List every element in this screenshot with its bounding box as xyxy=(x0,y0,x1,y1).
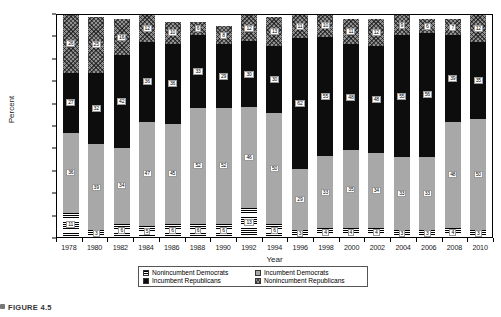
segment-incumbent-republicans: 48 xyxy=(368,46,384,153)
segment-value-label: 6 xyxy=(195,227,202,234)
segment-nonincumbent-republicans: 7 xyxy=(445,19,461,35)
legend-swatch-icon xyxy=(255,270,261,276)
segment-incumbent-democrats: 47 xyxy=(139,122,155,226)
segment-incumbent-democrats: 39 xyxy=(88,144,104,231)
x-axis-tick-mark xyxy=(262,238,263,242)
y-axis: Percent 0%10%20%30%40%50%60%70%80%90%100… xyxy=(0,0,56,239)
segment-nonincumbent-democrats: 4 xyxy=(368,228,384,237)
segment-value-label: 4 xyxy=(373,229,380,236)
segment-value-label: 42 xyxy=(117,98,126,105)
segment-value-label: 6 xyxy=(424,23,431,30)
segment-value-label: 36 xyxy=(143,78,152,85)
segment-value-label: 39 xyxy=(448,75,457,82)
segment-value-label: 3 xyxy=(399,230,406,237)
segment-incumbent-democrats: 34 xyxy=(114,148,130,223)
segment-value-label: 5 xyxy=(144,228,151,235)
segment-value-label: 4 xyxy=(449,229,456,236)
segment-incumbent-democrats: 34 xyxy=(368,153,384,228)
x-axis-tick-label: 2006 xyxy=(416,243,442,255)
segment-incumbent-republicans: 48 xyxy=(343,44,359,151)
segment-incumbent-democrats: 48 xyxy=(445,122,461,229)
segment-value-label: 4 xyxy=(322,229,329,236)
x-axis-tick-label: 2008 xyxy=(442,243,468,255)
segment-incumbent-democrats: 52 xyxy=(190,108,206,223)
segment-nonincumbent-republicans: 16 xyxy=(114,19,130,55)
segment-value-label: 6 xyxy=(220,227,227,234)
segment-nonincumbent-democrats: 4 xyxy=(445,228,461,237)
segment-value-label: 32 xyxy=(92,105,101,112)
segment-value-label: 13 xyxy=(270,28,279,35)
segment-nonincumbent-republicans: 6 xyxy=(419,19,435,32)
segment-incumbent-republicans: 36 xyxy=(165,44,181,124)
bar-1998: 4335510 xyxy=(317,15,333,237)
segment-value-label: 6 xyxy=(271,227,278,234)
segment-nonincumbent-democrats: 6 xyxy=(190,224,206,237)
x-axis-tick-mark xyxy=(159,238,160,242)
segment-value-label: 25 xyxy=(92,41,101,48)
x-axis-tick-mark xyxy=(82,238,83,242)
x-axis-tick-mark xyxy=(313,238,314,242)
segment-value-label: 50 xyxy=(270,165,279,172)
x-axis-tick-mark xyxy=(287,238,288,242)
legend-item-label: Nonincumbent Republicans xyxy=(264,277,345,284)
x-axis-tick-label: 1998 xyxy=(313,243,339,255)
segment-nonincumbent-democrats: 6 xyxy=(216,224,232,237)
segment-value-label: 36 xyxy=(168,80,177,87)
bar-1990: 652298 xyxy=(216,15,232,237)
segment-incumbent-democrats: 36 xyxy=(63,133,79,213)
x-axis-tick-label: 2010 xyxy=(467,243,493,255)
segment-value-label: 10 xyxy=(168,29,177,36)
segment-nonincumbent-republicans: 8 xyxy=(216,26,232,44)
segment-nonincumbent-republicans: 12 xyxy=(470,15,486,42)
segment-value-label: 46 xyxy=(244,154,253,161)
x-axis-tick-mark xyxy=(185,238,186,242)
bar-2004: 333559 xyxy=(394,15,410,237)
segment-incumbent-republicans: 35 xyxy=(470,42,486,120)
stacked-bar-chart: Percent 0%10%20%30%40%50%60%70%80%90%100… xyxy=(0,0,501,317)
legend-swatch-icon xyxy=(143,278,149,284)
segment-value-label: 6 xyxy=(118,227,125,234)
x-axis-tick-label: 1992 xyxy=(236,243,262,255)
segment-value-label: 12 xyxy=(372,29,381,36)
segment-value-label: 52 xyxy=(193,162,202,169)
segment-value-label: 11 xyxy=(346,28,355,35)
segment-nonincumbent-democrats: 4 xyxy=(343,228,359,237)
segment-value-label: 30 xyxy=(244,71,253,78)
segment-value-label: 16 xyxy=(117,34,126,41)
segment-nonincumbent-democrats: 6 xyxy=(266,224,282,237)
segment-value-label: 7 xyxy=(449,24,456,31)
x-axis-tick-label: 1988 xyxy=(185,243,211,255)
x-axis-tick-label: 1982 xyxy=(107,243,133,255)
segment-incumbent-democrats: 33 xyxy=(317,156,333,228)
x-axis-tick-mark xyxy=(107,238,108,242)
segment-nonincumbent-republicans: 10 xyxy=(165,22,181,44)
bar-2000: 4354811 xyxy=(343,15,359,237)
segment-value-label: 33 xyxy=(193,68,202,75)
legend-item-label: Incumbent Democrats xyxy=(264,269,329,276)
segment-incumbent-republicans: 62 xyxy=(292,38,308,169)
segment-value-label: 39 xyxy=(92,184,101,191)
segment-incumbent-democrats: 35 xyxy=(343,150,359,228)
x-axis-tick-mark xyxy=(416,238,417,242)
legend-item-nonincumbent-democrats: Nonincumbent Democrats xyxy=(143,269,251,276)
segment-value-label: 48 xyxy=(372,96,381,103)
x-axis-tick-mark xyxy=(467,238,468,242)
segment-incumbent-democrats: 33 xyxy=(394,157,410,230)
segment-nonincumbent-republicans: 25 xyxy=(88,17,104,73)
legend-swatch-icon xyxy=(143,270,149,276)
bar-1984: 5473612 xyxy=(139,15,155,237)
legend-item-incumbent-democrats: Incumbent Democrats xyxy=(255,269,363,276)
segment-nonincumbent-democrats: 3 xyxy=(419,230,435,237)
segment-nonincumbent-republicans: 13 xyxy=(266,17,282,46)
segment-value-label: 3 xyxy=(297,230,304,237)
segment-value-label: 29 xyxy=(295,196,304,203)
x-axis-tick-mark xyxy=(210,238,211,242)
segment-value-label: 56 xyxy=(423,91,432,98)
segment-value-label: 48 xyxy=(346,94,355,101)
segment-value-label: 35 xyxy=(346,186,355,193)
segment-nonincumbent-democrats: 3 xyxy=(394,230,410,237)
segment-incumbent-democrats: 45 xyxy=(165,124,181,224)
x-axis-labels: 1978198019821984198619881990199219941996… xyxy=(56,243,493,255)
segment-incumbent-republicans: 32 xyxy=(88,73,104,144)
x-axis-tick-label: 2002 xyxy=(364,243,390,255)
